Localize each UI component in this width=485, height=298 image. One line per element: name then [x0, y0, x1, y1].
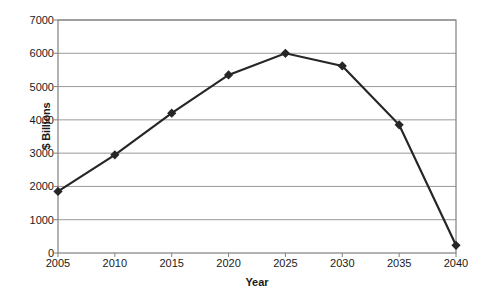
- plot-area: [0, 0, 485, 298]
- gridlines: [58, 20, 456, 220]
- axis-frame: [54, 20, 456, 257]
- data-point-marker: [281, 49, 290, 58]
- data-point-marker: [451, 241, 460, 250]
- line-chart: $ Billions Year 010002000300040005000600…: [0, 0, 485, 298]
- axis-border: [58, 20, 456, 253]
- data-line-series-1: [58, 53, 456, 245]
